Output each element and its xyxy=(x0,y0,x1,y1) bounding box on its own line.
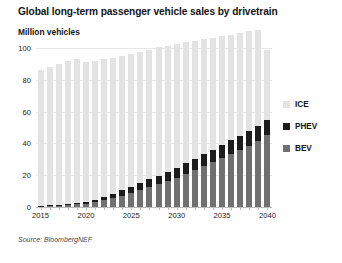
bar-segment-ice xyxy=(146,50,152,180)
x-axis-tick xyxy=(59,207,60,210)
bar-segment-phev xyxy=(264,120,270,136)
bar-group xyxy=(146,48,152,207)
bar-segment-ice xyxy=(83,62,89,201)
bar-segment-phev xyxy=(83,202,89,204)
bar-segment-ice xyxy=(237,33,243,136)
bar-segment-ice xyxy=(128,54,134,186)
bar-segment-phev xyxy=(192,159,198,170)
bar-group xyxy=(101,48,107,207)
bar-segment-phev xyxy=(110,194,116,198)
x-axis-tick xyxy=(177,207,178,210)
bar-segment-phev xyxy=(146,179,152,187)
bar-segment-phev xyxy=(137,183,143,190)
bar-segment-phev xyxy=(219,145,225,158)
bar-group xyxy=(219,48,225,207)
bar-group xyxy=(156,48,162,207)
bar-segment-ice xyxy=(65,61,71,204)
bar-group xyxy=(246,48,252,207)
gridline xyxy=(36,207,272,208)
legend-label: BEV xyxy=(295,144,312,153)
source-note: Source: BloombergNEF xyxy=(18,236,92,243)
bar-segment-phev xyxy=(228,140,234,153)
bar-segment-ice xyxy=(228,35,234,141)
x-axis-tick xyxy=(122,207,123,210)
bar-segment-ice xyxy=(137,52,143,183)
bar-segment-phev xyxy=(74,203,80,204)
bar-segment-ice xyxy=(165,46,171,172)
bar-group xyxy=(65,48,71,207)
bar-segment-bev xyxy=(201,166,207,207)
legend-item-bev[interactable]: BEV xyxy=(283,144,339,153)
x-axis-tick xyxy=(222,207,223,210)
x-axis-tick xyxy=(195,207,196,210)
x-axis-tick xyxy=(249,207,250,210)
x-axis-tick xyxy=(168,207,169,210)
legend-item-phev[interactable]: PHEV xyxy=(283,122,339,131)
bar-group xyxy=(38,48,44,207)
bar-group xyxy=(137,48,143,207)
chart-title: Global long-term passenger vehicle sales… xyxy=(18,6,278,17)
bar-group xyxy=(92,48,98,207)
y-axis-tick-label: 40 xyxy=(23,139,31,148)
bar-segment-bev xyxy=(165,181,171,207)
y-axis-tick-label: 0 xyxy=(27,203,31,212)
bar-group xyxy=(264,48,270,207)
bar-group xyxy=(255,48,261,207)
bar-segment-phev xyxy=(156,176,162,184)
bar-segment-bev xyxy=(246,146,252,207)
x-axis-tick-label: 2035 xyxy=(214,211,231,220)
bar-segment-ice xyxy=(219,36,225,145)
bar-segment-phev xyxy=(92,200,98,202)
x-axis-tick xyxy=(95,207,96,210)
bar-group xyxy=(119,48,125,207)
bar-group xyxy=(201,48,207,207)
chart-legend: ICEPHEVBEV xyxy=(283,100,339,166)
bar-segment-bev xyxy=(119,196,125,207)
bar-group xyxy=(74,48,80,207)
bar-group xyxy=(174,48,180,207)
x-axis-tick xyxy=(186,207,187,210)
bar-segment-ice xyxy=(210,38,216,150)
x-axis-tick xyxy=(240,207,241,210)
bar-segment-ice xyxy=(156,47,162,175)
chart-figure: Global long-term passenger vehicle sales… xyxy=(0,0,342,263)
bar-group xyxy=(83,48,89,207)
bar-segment-bev xyxy=(128,193,134,207)
bar-segment-ice xyxy=(47,67,53,205)
legend-item-ice[interactable]: ICE xyxy=(283,100,339,109)
bar-group xyxy=(210,48,216,207)
bar-segment-phev xyxy=(101,197,107,200)
bar-segment-bev xyxy=(101,200,107,207)
bar-segment-ice xyxy=(246,31,252,131)
bar-series-container xyxy=(36,48,272,207)
bar-segment-phev xyxy=(237,136,243,150)
x-axis-tick-label: 2030 xyxy=(168,211,185,220)
bar-segment-phev xyxy=(119,190,125,195)
legend-swatch-icon xyxy=(283,145,290,152)
x-axis-tick xyxy=(104,207,105,210)
legend-label: PHEV xyxy=(295,122,317,131)
bar-segment-bev xyxy=(237,150,243,207)
x-axis-tick xyxy=(213,207,214,210)
bar-segment-ice xyxy=(110,58,116,194)
bar-group xyxy=(47,48,53,207)
bar-group xyxy=(183,48,189,207)
bar-segment-ice xyxy=(255,30,261,126)
x-axis-tick xyxy=(68,207,69,210)
bar-segment-ice xyxy=(119,56,125,191)
bar-group xyxy=(192,48,198,207)
bar-segment-ice xyxy=(264,50,270,120)
y-axis-tick-label: 60 xyxy=(23,107,31,116)
bar-segment-bev xyxy=(146,187,152,207)
bar-segment-phev xyxy=(255,126,261,141)
x-axis-tick-label: 2025 xyxy=(123,211,140,220)
bar-segment-phev xyxy=(56,205,62,206)
bar-segment-bev xyxy=(174,178,180,207)
bar-segment-bev xyxy=(228,154,234,207)
bar-segment-phev xyxy=(183,163,189,173)
bar-segment-phev xyxy=(128,187,134,193)
bar-segment-phev xyxy=(165,172,171,181)
x-axis-tick xyxy=(50,207,51,210)
bar-segment-ice xyxy=(174,44,180,168)
bar-group xyxy=(56,48,62,207)
